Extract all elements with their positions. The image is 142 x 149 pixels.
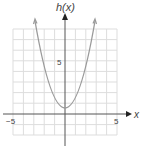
y-axis-arrow-icon	[62, 13, 68, 20]
x-axis-arrow-icon	[126, 111, 132, 117]
x-axis-label: x	[133, 109, 140, 120]
y-tick-5: 5	[57, 58, 62, 67]
x-tick-max: 5	[114, 117, 119, 126]
chart: h(x) x −5 5 5	[0, 0, 142, 149]
y-axis-label: h(x)	[56, 1, 75, 13]
x-tick-min: −5	[6, 117, 16, 126]
